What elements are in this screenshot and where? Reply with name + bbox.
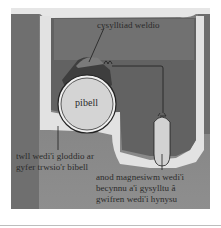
pipe-label: pibell bbox=[75, 98, 98, 108]
anode-label-line2: becynnu a'i gysylltu â bbox=[96, 183, 175, 193]
trench-label-line1: twll wedi'i gloddio ar bbox=[16, 151, 94, 161]
trench-label-line2: gyfer trwsio'r bibell bbox=[16, 162, 88, 172]
weld-label: cysylltiad weldio bbox=[97, 20, 160, 30]
bottom-divider bbox=[0, 225, 221, 226]
anode-label-line3: gwifren wedi'i hynysu bbox=[96, 194, 177, 204]
anode-label-line1: anod magnesiwm wedi'i bbox=[96, 172, 184, 182]
